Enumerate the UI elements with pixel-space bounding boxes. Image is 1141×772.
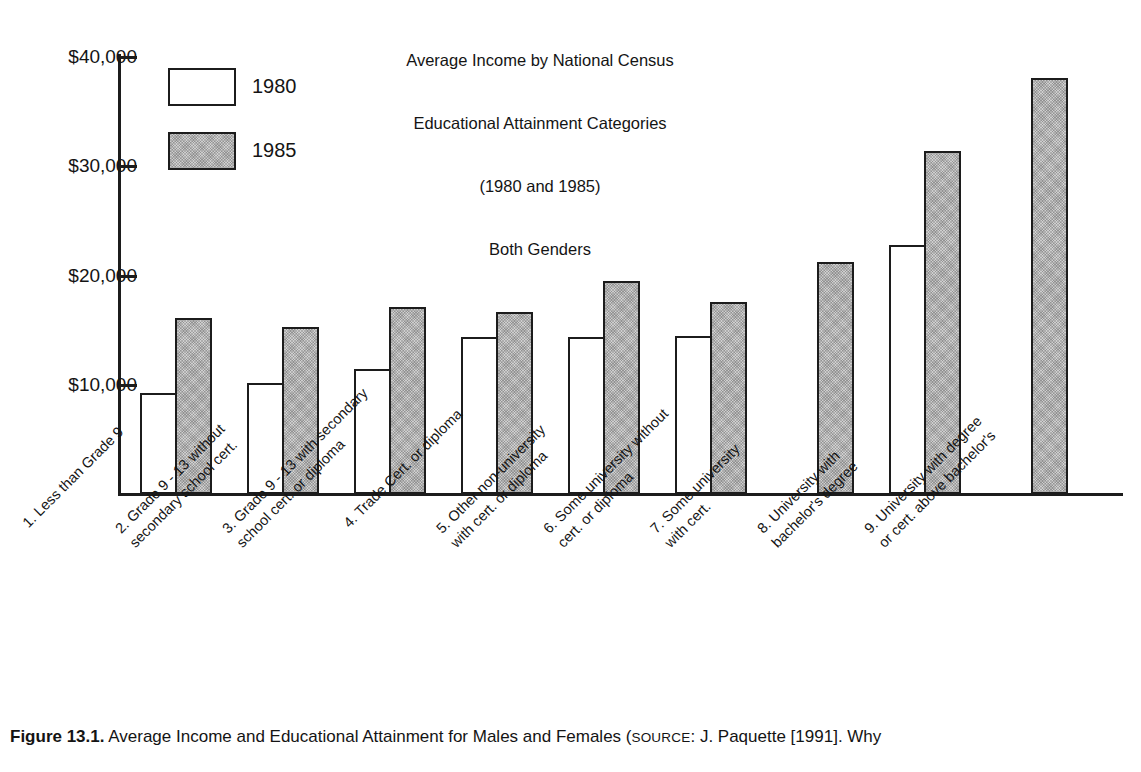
x-axis-category-label-1: 1. Less than Grade 9 xyxy=(18,422,128,532)
category-label-line-1: 1. Less than Grade 9 xyxy=(19,424,126,531)
figure-caption: Figure 13.1. Average Income and Educatio… xyxy=(10,726,1135,749)
caption-text-after-source: : J. Paquette [1991]. Why xyxy=(690,727,881,746)
caption-text-before-source: Average Income and Educational Attainmen… xyxy=(104,727,631,746)
legend-label-1985: 1985 xyxy=(252,139,297,161)
y-axis-tick-mark xyxy=(121,275,137,278)
figure-number: Figure 13.1. xyxy=(10,727,104,746)
x-axis-category-label-8: 8. University withbachelor's degree xyxy=(753,443,862,552)
y-axis-tick-mark xyxy=(121,165,137,168)
bar-1980-category-8 xyxy=(889,245,926,494)
caption-source-label: SOURCE xyxy=(631,730,690,745)
y-axis-tick-mark xyxy=(121,384,137,387)
legend-swatch-1980-icon xyxy=(168,68,236,106)
legend-label-1980: 1980 xyxy=(252,75,297,97)
y-axis-tick-mark xyxy=(121,56,137,59)
bar-1985-category-9 xyxy=(1031,78,1068,494)
legend-swatch-1985-icon xyxy=(168,132,236,170)
